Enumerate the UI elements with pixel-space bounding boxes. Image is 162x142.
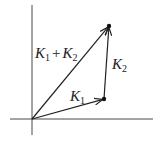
label-k-symbol: K <box>112 56 122 72</box>
label-plus: + <box>52 45 60 61</box>
label-subscript: 1 <box>80 95 85 106</box>
vector-k1 <box>32 100 102 119</box>
sum-tip-point <box>107 24 111 28</box>
label-k1-plus-k2: K1+K2 <box>35 46 78 63</box>
label-k-symbol: K <box>70 88 80 104</box>
label-k1: K1 <box>70 89 85 106</box>
label-k2: K2 <box>112 57 127 74</box>
label-k-symbol: K <box>35 45 45 61</box>
label-subscript: 1 <box>45 52 50 63</box>
label-k-symbol: K <box>62 45 72 61</box>
label-subscript: 2 <box>73 52 78 63</box>
vector-k2 <box>104 28 109 99</box>
vector-diagram <box>0 0 162 142</box>
k1-tip-point <box>102 97 106 101</box>
label-subscript: 2 <box>122 63 127 74</box>
